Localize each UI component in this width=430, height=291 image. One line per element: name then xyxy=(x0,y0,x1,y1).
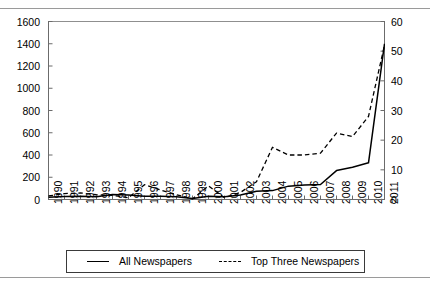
series-line-top-three-newspapers xyxy=(49,45,385,199)
legend-swatch-top-three-newspapers xyxy=(219,261,241,262)
left-axis-tick-label: 1600 xyxy=(0,17,40,28)
left-axis-tick-label: 1400 xyxy=(0,39,40,50)
right-axis-tick-label: 20 xyxy=(391,135,403,146)
left-axis-tick-label: 1200 xyxy=(0,61,40,72)
right-axis-tick-label: 30 xyxy=(391,106,403,117)
left-axis-tick-label: 600 xyxy=(0,128,40,139)
left-axis-tick-label: 800 xyxy=(0,106,40,117)
x-axis-tick-label: 2011 xyxy=(389,181,400,204)
bottom-divider-rule xyxy=(0,277,430,278)
right-axis-tick-label: 40 xyxy=(391,76,403,87)
left-axis-tick-label: 200 xyxy=(0,172,40,183)
legend-swatch-all-newspapers xyxy=(87,261,109,262)
left-axis-tick-label: 400 xyxy=(0,150,40,161)
figure: 02004006008001000120014001600 0102030405… xyxy=(0,0,430,291)
top-divider-rule xyxy=(0,8,430,9)
left-axis-tick-label: 0 xyxy=(0,195,40,206)
right-axis-tick-label: 60 xyxy=(391,17,403,28)
plot-area xyxy=(48,21,385,200)
right-axis-tick-label: 10 xyxy=(391,165,403,176)
legend: All Newspapers Top Three Newspapers xyxy=(66,250,365,273)
series-line-all-newspapers xyxy=(49,44,385,199)
left-axis-tick-label: 1000 xyxy=(0,83,40,94)
right-axis-tick-label: 50 xyxy=(391,46,403,57)
legend-label-top-three-newspapers: Top Three Newspapers xyxy=(251,255,359,267)
left-axis-ticks xyxy=(49,22,53,200)
chart-canvas xyxy=(48,21,385,200)
legend-label-all-newspapers: All Newspapers xyxy=(119,255,192,267)
